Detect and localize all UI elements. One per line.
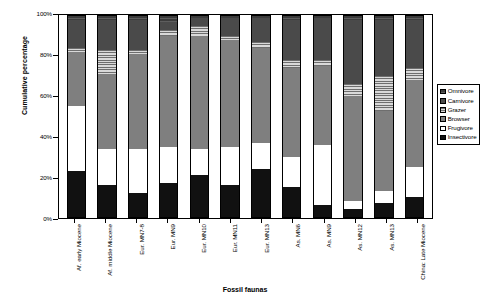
bar-segment-insectivore <box>68 171 86 217</box>
bar-segment-frugivore <box>129 149 147 193</box>
stacked-bar[interactable] <box>220 15 240 218</box>
bar-slot <box>307 15 338 218</box>
bar-segment-insectivore <box>314 205 332 217</box>
bar-segment-browser <box>129 54 147 148</box>
bar-segment-carnivore <box>98 20 116 50</box>
x-axis-tick-mark <box>417 219 418 223</box>
x-axis-tick-mark <box>355 219 356 223</box>
stacked-bar[interactable] <box>251 15 271 218</box>
bar-slot <box>153 15 184 218</box>
bar-segment-insectivore <box>252 169 270 217</box>
legend-item[interactable]: Omnivore <box>440 87 477 96</box>
bar-segment-carnivore <box>375 20 393 76</box>
legend-item[interactable]: Carnivore <box>440 96 477 105</box>
bar-segment-frugivore <box>252 143 270 169</box>
y-axis-title: Cumulative percentage <box>21 6 28 146</box>
bar-segment-carnivore <box>129 20 147 50</box>
x-axis-tick-label: As. MN12 <box>357 224 363 251</box>
stacked-bar[interactable] <box>282 15 302 218</box>
legend-item-label: Browser <box>448 116 470 122</box>
legend-item[interactable]: Frugivore <box>440 124 477 133</box>
y-axis-tick-label: 80% <box>0 52 52 58</box>
bar-segment-grazer <box>406 68 424 80</box>
bar-segment-grazer <box>344 84 362 96</box>
x-axis-tick-label: Eur. MN9 <box>170 224 176 249</box>
bar-slot <box>123 15 154 218</box>
x-axis-tick-mark <box>292 219 293 223</box>
y-axis-tick-label: 40% <box>0 134 52 140</box>
legend-item-label: Carnivore <box>448 98 474 104</box>
bar-segment-frugivore <box>191 149 209 175</box>
bar-segment-grazer <box>375 76 393 110</box>
y-axis-tick-label: 100% <box>0 11 52 17</box>
legend-swatch-icon <box>440 116 446 122</box>
bar-segment-frugivore <box>221 147 239 185</box>
x-axis-tick-mark <box>74 219 75 223</box>
bar-segment-insectivore <box>191 175 209 217</box>
x-axis-tick-label: As. MN6 <box>295 224 301 247</box>
legend: OmnivoreCarnivoreGrazerBrowserFrugivoreI… <box>437 84 480 145</box>
bar-segment-browser <box>252 48 270 142</box>
stacked-bar[interactable] <box>374 15 394 218</box>
legend-swatch-icon <box>440 98 446 104</box>
legend-swatch-icon <box>440 135 446 141</box>
stacked-bar[interactable] <box>405 15 425 218</box>
stacked-bar[interactable] <box>67 15 87 218</box>
legend-swatch-icon <box>440 126 446 132</box>
stacked-bar[interactable] <box>343 15 363 218</box>
bar-segment-frugivore <box>98 149 116 185</box>
x-axis-tick-label: Eur. MN11 <box>232 224 238 252</box>
legend-item-label: Frugivore <box>448 125 473 131</box>
x-axis-tick-label: Af. middle Miocene <box>107 224 113 276</box>
x-axis-title: Fossil faunas <box>160 286 330 293</box>
bar-slot <box>246 15 277 218</box>
stacked-bar[interactable] <box>313 15 333 218</box>
bar-segment-browser <box>283 68 301 156</box>
bar-segment-carnivore <box>283 20 301 60</box>
bar-segment-browser <box>160 36 178 147</box>
bar-segment-carnivore <box>252 18 270 42</box>
bar-segment-grazer <box>191 26 209 36</box>
bar-segment-browser <box>375 111 393 191</box>
bar-segment-carnivore <box>68 20 86 48</box>
bar-segment-browser <box>221 40 239 147</box>
bar-segment-frugivore <box>283 157 301 187</box>
y-axis-tick-label: 60% <box>0 93 52 99</box>
x-axis-tick-mark <box>199 219 200 223</box>
bar-segment-insectivore <box>129 193 147 217</box>
legend-item-label: Omnivore <box>448 88 474 94</box>
legend-item[interactable]: Browser <box>440 115 477 124</box>
legend-item[interactable]: Insectivore <box>440 133 477 142</box>
legend-swatch-icon <box>440 107 446 113</box>
bar-segment-frugivore <box>344 201 362 209</box>
bar-segment-insectivore <box>344 209 362 217</box>
stacked-bar-group <box>59 15 432 218</box>
bar-segment-carnivore <box>344 20 362 84</box>
stacked-bar[interactable] <box>128 15 148 218</box>
bar-segment-insectivore <box>160 183 178 217</box>
bar-segment-browser <box>68 52 86 106</box>
x-axis-tick-mark <box>324 219 325 223</box>
stacked-bar[interactable] <box>190 15 210 218</box>
bar-segment-carnivore <box>160 22 178 30</box>
y-axis-tick-label: 0% <box>0 216 52 222</box>
legend-swatch-icon <box>440 89 446 95</box>
bar-slot <box>276 15 307 218</box>
stacked-bar[interactable] <box>97 15 117 218</box>
legend-item[interactable]: Grazer <box>440 105 477 114</box>
bar-segment-frugivore <box>314 145 332 205</box>
stacked-bar[interactable] <box>159 15 179 218</box>
x-axis-tick-mark <box>105 219 106 223</box>
bar-segment-carnivore <box>191 18 209 26</box>
bar-segment-browser <box>344 96 362 201</box>
bar-segment-browser <box>98 74 116 148</box>
bar-segment-frugivore <box>68 106 86 170</box>
legend-item-label: Insectivore <box>448 134 477 140</box>
bar-segment-insectivore <box>98 185 116 217</box>
y-axis-tick-label: 20% <box>0 175 52 181</box>
bar-slot <box>92 15 123 218</box>
chart-figure: Cumulative percentage 0%20%40%60%80%100%… <box>0 0 493 307</box>
x-axis-tick-mark <box>386 219 387 223</box>
x-axis-tick-label: As. MN13 <box>389 224 395 251</box>
x-axis-tick-label: As. MN9 <box>326 224 332 247</box>
